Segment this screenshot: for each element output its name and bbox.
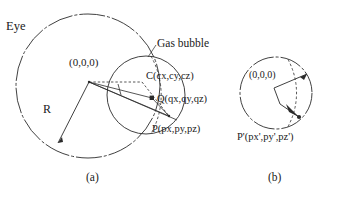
p-point-label: P(px,py,pz) bbox=[152, 124, 200, 135]
right-p-point-marker bbox=[297, 115, 301, 119]
panel-b-graphics bbox=[240, 57, 312, 129]
right-section-arc bbox=[288, 60, 297, 127]
radius-line-r bbox=[58, 82, 89, 143]
center-label: C(cx,cy,cz) bbox=[146, 71, 194, 82]
gas-bubble-leader bbox=[148, 45, 156, 57]
right-p-prime-label: P'(px',py',pz') bbox=[237, 132, 294, 143]
right-origin-label: (0,0,0) bbox=[249, 70, 276, 80]
panel-a-graphics bbox=[16, 14, 185, 158]
p-point-marker bbox=[168, 115, 170, 117]
eye-circle bbox=[16, 14, 160, 158]
caption-b: (b) bbox=[268, 172, 281, 184]
eye-label: Eye bbox=[6, 20, 25, 33]
radius-label: R bbox=[43, 103, 51, 115]
origin-label: (0,0,0) bbox=[69, 57, 98, 68]
q-point-label: Q(qx,qy,qz) bbox=[157, 94, 207, 105]
q-point-marker bbox=[150, 96, 154, 100]
right-top-wedge bbox=[300, 74, 307, 80]
right-lower-wedge bbox=[286, 104, 299, 117]
gas-bubble-label: Gas bubble bbox=[157, 38, 209, 50]
origin-point-marker bbox=[88, 81, 90, 83]
caption-a: (a) bbox=[86, 172, 99, 184]
